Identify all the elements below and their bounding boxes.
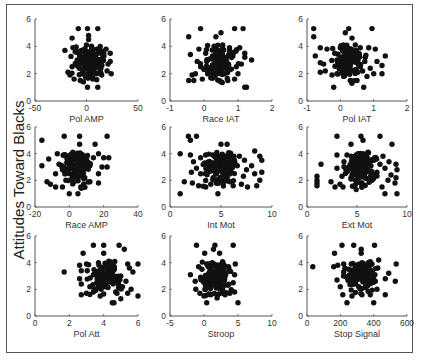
data-point (311, 34, 316, 39)
data-point (318, 162, 323, 167)
data-point (207, 159, 212, 164)
x-tick-label: 0 (168, 209, 173, 219)
scatter-panel-5: 05100246Int Mot (161, 122, 277, 230)
data-point (80, 167, 85, 172)
data-point (393, 279, 398, 284)
x-tick-label: 0 (338, 103, 343, 113)
data-point (348, 272, 353, 277)
y-tick-label: 0 (161, 311, 166, 321)
data-point (191, 159, 196, 164)
data-point (106, 155, 111, 160)
data-point (204, 300, 209, 305)
y-tick-label: 4 (298, 41, 303, 51)
y-tick-label: 0 (26, 96, 31, 106)
data-point (90, 282, 95, 287)
data-point (389, 142, 394, 147)
data-point (53, 184, 58, 189)
data-point (105, 285, 110, 290)
data-point (334, 277, 339, 282)
y-tick-label: 6 (26, 122, 31, 132)
x-axis-label: Ext Mot (342, 220, 373, 230)
data-point (186, 78, 191, 83)
y-tick-label: 2 (26, 284, 31, 294)
data-point (83, 66, 88, 71)
x-axis-label: Pol Att (73, 329, 100, 339)
data-point (321, 61, 326, 66)
data-point (96, 263, 101, 268)
data-point (198, 61, 203, 66)
data-point (101, 243, 106, 248)
data-point (382, 191, 387, 196)
data-point (44, 179, 49, 184)
data-point (344, 300, 349, 305)
y-tick-label: 2 (298, 175, 303, 185)
data-point (91, 243, 96, 248)
data-point (318, 70, 323, 75)
data-point (369, 168, 374, 173)
data-point (117, 277, 122, 282)
data-point (61, 269, 66, 274)
data-point (382, 166, 387, 171)
data-point (231, 243, 236, 248)
data-point (92, 142, 97, 147)
data-point (242, 55, 247, 60)
data-point (194, 134, 199, 139)
data-point (227, 268, 232, 273)
data-point (200, 76, 205, 81)
data-point (71, 179, 76, 184)
y-tick-label: 4 (298, 258, 303, 268)
data-point (394, 167, 399, 172)
data-point (212, 154, 217, 159)
data-point (88, 275, 93, 280)
y-tick-label: 4 (161, 149, 166, 159)
data-point (74, 50, 79, 55)
data-point (178, 151, 183, 156)
x-axis-label: Stroop (208, 329, 235, 339)
data-point (95, 26, 100, 31)
data-point (74, 44, 79, 49)
data-point (75, 63, 80, 68)
x-tick-label: 0 (202, 103, 207, 113)
data-point (67, 191, 72, 196)
data-point (215, 77, 220, 82)
data-point (379, 71, 384, 76)
data-point (359, 157, 364, 162)
x-tick-label: 1 (236, 103, 241, 113)
data-point (196, 46, 201, 51)
data-point (221, 183, 226, 188)
data-point (323, 68, 328, 73)
data-point (360, 265, 365, 270)
data-point (193, 287, 198, 292)
data-point (86, 179, 91, 184)
scatter-panel-8: -505100246Stroop (161, 231, 277, 339)
data-point (225, 70, 230, 75)
data-point (225, 178, 230, 183)
data-point (182, 179, 187, 184)
x-axis-label: Int Mot (207, 220, 235, 230)
data-point (77, 276, 82, 281)
data-point (201, 184, 206, 189)
data-point (71, 76, 76, 81)
x-tick-label: 0 (305, 209, 310, 219)
data-point (191, 78, 196, 83)
data-point (111, 300, 116, 305)
data-point (122, 247, 127, 252)
data-point (350, 184, 355, 189)
data-point (86, 167, 91, 172)
x-tick-label: 6 (136, 318, 141, 328)
scatter-panel-6: 05100246Ext Mot (298, 122, 412, 230)
data-point (366, 267, 371, 272)
data-point (252, 148, 257, 153)
data-point (371, 176, 376, 181)
data-point (77, 263, 82, 268)
data-point (203, 293, 208, 298)
data-point (353, 52, 358, 57)
data-point (196, 183, 201, 188)
data-point (75, 175, 80, 180)
data-point (75, 191, 80, 196)
data-point (345, 167, 350, 172)
y-tick-label: 4 (161, 258, 166, 268)
data-point (199, 267, 204, 272)
data-point (335, 52, 340, 57)
x-axis-label: Stop Signal (334, 329, 380, 339)
